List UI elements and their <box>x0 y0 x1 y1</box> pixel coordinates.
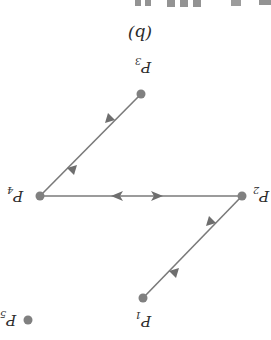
node-p5: P5 <box>0 309 33 329</box>
svg-text:P2: P2 <box>253 185 270 205</box>
graph-figure: (b) <box>0 0 271 340</box>
svg-text:P5: P5 <box>0 309 17 329</box>
svg-text:P4: P4 <box>7 185 24 205</box>
node-p2: P2 <box>238 185 271 205</box>
figure-caption: (b) <box>128 24 152 44</box>
edge-p4-p2 <box>40 191 242 201</box>
node-p3: P3 <box>135 56 152 99</box>
edge-p2-p1 <box>143 196 242 298</box>
graph-diagram: (b) <box>0 0 271 340</box>
svg-text:P3: P3 <box>135 56 152 76</box>
partial-text-strip <box>135 0 271 7</box>
node-p4: P4 <box>7 185 45 205</box>
edge-p3-p4 <box>40 94 141 196</box>
node-p1: P1 <box>135 294 152 331</box>
svg-text:P1: P1 <box>135 310 152 330</box>
